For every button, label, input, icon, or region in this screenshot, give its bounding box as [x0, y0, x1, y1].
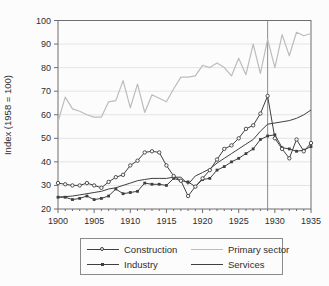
- legend-label-primary-sector: Primary sector: [228, 244, 289, 255]
- marker-open-circle: [201, 177, 204, 180]
- marker-filled-square: [208, 177, 211, 180]
- series-industry: [57, 133, 313, 201]
- marker-filled-square: [252, 148, 255, 151]
- line-1: [58, 135, 311, 200]
- marker-open-circle: [295, 138, 298, 141]
- marker-open-circle: [251, 124, 254, 127]
- y-tick-label-40: 40: [41, 157, 51, 167]
- marker-filled-square: [310, 145, 313, 148]
- marker-filled-square: [143, 182, 146, 185]
- marker-filled-square: [245, 152, 248, 155]
- marker-filled-square: [57, 196, 60, 199]
- x-tick-label-1935: 1935: [301, 216, 321, 226]
- marker-filled-square: [114, 188, 117, 191]
- legend-item-industry: Industry: [87, 257, 158, 272]
- marker-open-circle: [259, 112, 262, 115]
- marker-filled-square: [230, 160, 233, 163]
- marker-open-circle: [186, 194, 189, 197]
- marker-filled-square: [158, 183, 161, 186]
- marker-open-circle: [215, 158, 218, 161]
- x-tick-label-1925: 1925: [229, 216, 249, 226]
- series-primary-sector: [58, 32, 311, 122]
- marker-filled-square: [86, 195, 89, 198]
- marker-filled-square: [266, 135, 269, 138]
- legend-label-services: Services: [228, 259, 264, 270]
- y-tick-label-60: 60: [41, 110, 51, 120]
- marker-open-circle: [121, 173, 124, 176]
- marker-filled-square: [165, 184, 168, 187]
- y-tick-label-70: 70: [41, 86, 51, 96]
- marker-open-circle: [165, 164, 168, 167]
- marker-open-circle: [273, 137, 276, 140]
- legend-item-services: Services: [191, 257, 264, 272]
- line-2: [58, 32, 311, 122]
- marker-open-circle: [208, 168, 211, 171]
- marker-open-circle: [85, 181, 88, 184]
- y-tick-label-90: 90: [41, 39, 51, 49]
- marker-open-circle: [179, 179, 182, 182]
- marker-open-circle: [158, 151, 161, 154]
- marker-open-circle: [64, 183, 67, 186]
- x-tick-label-1915: 1915: [156, 216, 176, 226]
- x-tick-label-1905: 1905: [84, 216, 104, 226]
- marker-open-circle: [309, 141, 312, 144]
- marker-filled-square: [295, 150, 298, 153]
- marker-filled-square: [107, 195, 110, 198]
- construction-line-marker-icon: [87, 244, 119, 255]
- marker-open-circle: [288, 157, 291, 160]
- y-axis-title: Index (1958 = 100): [2, 75, 13, 155]
- marker-open-circle: [56, 181, 59, 184]
- marker-filled-square: [151, 183, 154, 186]
- marker-open-circle: [107, 180, 110, 183]
- marker-open-circle: [143, 151, 146, 154]
- y-tick-label-30: 30: [41, 180, 51, 190]
- marker-open-circle: [244, 127, 247, 130]
- marker-open-circle: [280, 147, 283, 150]
- x-tick-label-1910: 1910: [120, 216, 140, 226]
- marker-open-circle: [223, 147, 226, 150]
- marker-filled-square: [216, 169, 219, 172]
- x-tick-label-1900: 1900: [48, 216, 68, 226]
- marker-open-circle: [92, 184, 95, 187]
- plot-area: 2030405060708090100190019051910191519201…: [36, 16, 321, 227]
- marker-filled-square: [122, 192, 125, 195]
- services-line-icon: [191, 259, 223, 270]
- x-tick-label-1920: 1920: [193, 216, 213, 226]
- legend-item-primary-sector: Primary sector: [191, 242, 289, 257]
- marker-open-circle: [266, 94, 269, 97]
- marker-filled-square: [64, 196, 67, 199]
- marker-open-circle: [129, 164, 132, 167]
- legend-item-construction: Construction: [87, 242, 177, 257]
- y-tick-label-20: 20: [41, 204, 51, 214]
- marker-open-circle: [302, 150, 305, 153]
- marker-filled-square: [129, 191, 132, 194]
- marker-filled-square: [71, 198, 74, 201]
- marker-open-circle: [237, 137, 240, 140]
- y-tick-label-100: 100: [36, 16, 51, 26]
- primary-sector-line-icon: [191, 244, 223, 255]
- plot-canvas: Index (1958 = 100) 203040506070809010019…: [0, 0, 329, 236]
- marker-open-circle: [100, 186, 103, 189]
- marker-filled-square: [78, 197, 81, 200]
- line-3: [58, 110, 311, 197]
- series-services: [58, 110, 311, 197]
- y-tick-label-80: 80: [41, 63, 51, 73]
- marker-filled-square: [223, 165, 226, 168]
- marker-filled-square: [187, 181, 190, 184]
- marker-filled-square: [136, 190, 139, 193]
- legend-box: Construction Primary sector Industry Ser…: [80, 238, 283, 275]
- marker-filled-square: [259, 138, 262, 141]
- marker-filled-square: [237, 157, 240, 160]
- x-tick-label-1930: 1930: [265, 216, 285, 226]
- marker-open-circle: [114, 175, 117, 178]
- series-construction: [56, 94, 312, 198]
- marker-open-circle: [78, 184, 81, 187]
- line-chart: Index (1958 = 100) 203040506070809010019…: [0, 0, 329, 286]
- marker-open-circle: [172, 174, 175, 177]
- legend-label-construction: Construction: [124, 244, 177, 255]
- marker-filled-square: [288, 148, 291, 151]
- marker-open-circle: [194, 185, 197, 188]
- industry-line-marker-icon: [87, 259, 119, 270]
- marker-open-circle: [136, 159, 139, 162]
- marker-open-circle: [150, 150, 153, 153]
